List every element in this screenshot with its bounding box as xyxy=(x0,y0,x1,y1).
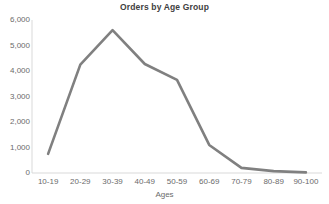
x-tick-label: 90-100 xyxy=(293,177,318,186)
x-tick-label: 20-29 xyxy=(70,177,90,186)
x-axis: 10-1920-2930-3940-4950-5960-6970-7980-89… xyxy=(0,177,329,191)
x-tick-label: 10-19 xyxy=(38,177,58,186)
plot-area xyxy=(0,0,329,204)
data-series-line xyxy=(48,30,306,172)
x-tick-label: 70-79 xyxy=(231,177,251,186)
x-tick-label: 50-59 xyxy=(167,177,187,186)
x-tick-label: 30-39 xyxy=(102,177,122,186)
chart-container: Orders by Age Group 6,0005,0004,0003,000… xyxy=(0,0,329,204)
x-tick-label: 60-69 xyxy=(199,177,219,186)
x-tick-label: 80-89 xyxy=(263,177,283,186)
x-axis-title: Ages xyxy=(0,190,329,199)
x-tick-label: 40-49 xyxy=(135,177,155,186)
